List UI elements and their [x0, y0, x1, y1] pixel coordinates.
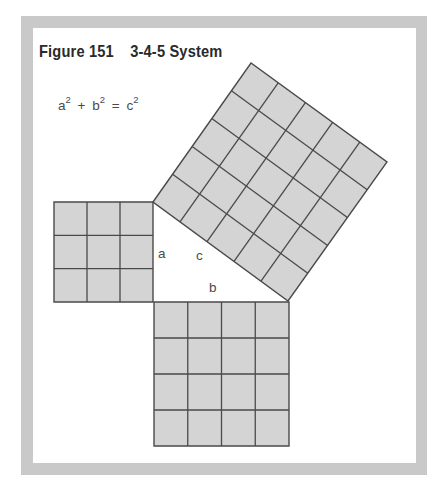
pythagorean-diagram: [0, 0, 442, 491]
square-c: [153, 63, 387, 301]
side-label-a: a: [158, 246, 166, 261]
square-b: [154, 302, 289, 446]
side-label-c: c: [196, 248, 203, 263]
side-label-b: b: [209, 280, 217, 295]
square-a: [54, 202, 153, 302]
